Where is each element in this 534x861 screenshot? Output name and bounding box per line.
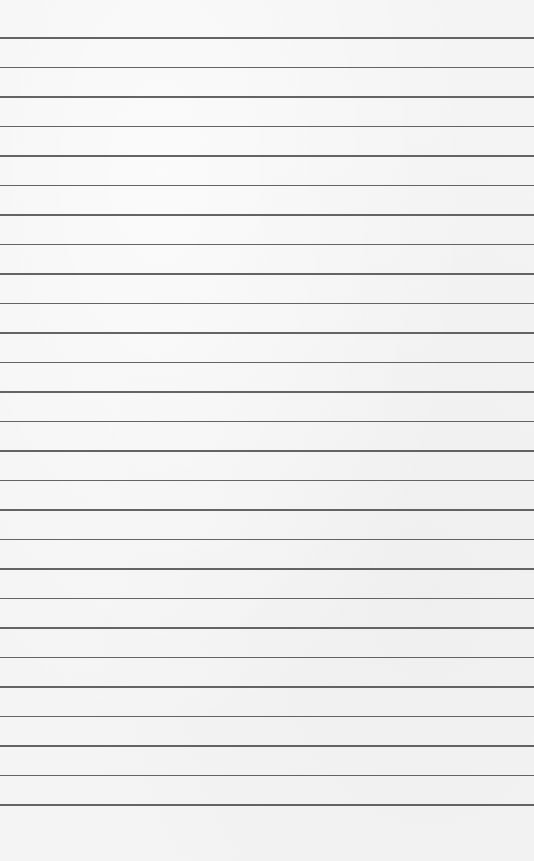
ruled-line	[0, 391, 534, 393]
ruled-line	[0, 362, 534, 364]
ruled-line	[0, 775, 534, 777]
ruled-line	[0, 509, 534, 511]
ruled-line	[0, 303, 534, 305]
ruled-line	[0, 627, 534, 629]
ruled-line	[0, 96, 534, 98]
ruled-line	[0, 67, 534, 69]
ruled-line	[0, 450, 534, 452]
ruled-line	[0, 332, 534, 334]
ruled-line	[0, 686, 534, 688]
ruled-line	[0, 273, 534, 275]
ruled-line	[0, 421, 534, 423]
ruled-line	[0, 126, 534, 128]
ruled-line	[0, 804, 534, 806]
ruled-line	[0, 716, 534, 718]
ruled-line	[0, 745, 534, 747]
lined-paper	[0, 0, 534, 861]
ruled-line	[0, 539, 534, 541]
ruled-line	[0, 214, 534, 216]
ruled-line	[0, 598, 534, 600]
ruled-line	[0, 155, 534, 157]
ruled-line	[0, 37, 534, 39]
ruled-line	[0, 657, 534, 659]
ruled-line	[0, 185, 534, 187]
ruled-line	[0, 480, 534, 482]
ruled-line	[0, 244, 534, 246]
ruled-line	[0, 568, 534, 570]
